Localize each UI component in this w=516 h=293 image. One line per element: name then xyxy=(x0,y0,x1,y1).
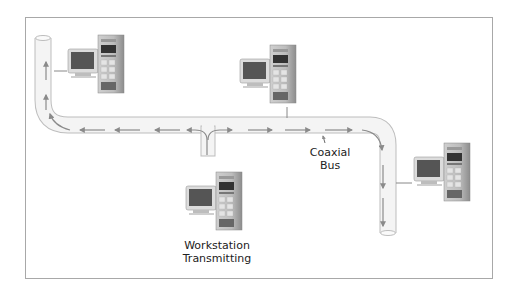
workstation-top-center-icon xyxy=(240,45,296,103)
workstation-transmitting-icon xyxy=(186,172,242,230)
transmitter-label-line1: Workstation xyxy=(172,239,262,252)
workstation-right-icon xyxy=(414,143,470,201)
workstation-top-left-icon xyxy=(68,35,124,93)
bus-label-line1: Coaxial xyxy=(305,146,355,159)
coaxial-bus-label: Coaxial Bus xyxy=(305,146,355,172)
transmitting-workstation-label: Workstation Transmitting xyxy=(172,239,262,265)
bus-label-line2: Bus xyxy=(305,159,355,172)
transmitter-label-line2: Transmitting xyxy=(172,252,262,265)
